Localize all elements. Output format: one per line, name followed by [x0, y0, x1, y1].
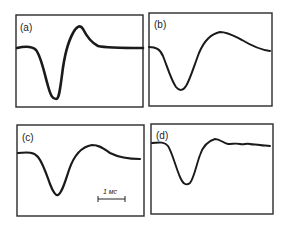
panel-a: (a) [16, 15, 143, 107]
panel-c: (c) 1 мс [17, 125, 144, 216]
panel-b: (b) [149, 13, 272, 106]
panel-c-trace [18, 145, 140, 195]
scale-bar-label: 1 мс [103, 188, 118, 195]
panel-b-trace [149, 32, 270, 90]
panel-d: (d) [151, 124, 273, 214]
panel-c-frame [17, 125, 144, 216]
panel-d-trace [152, 139, 270, 184]
panel-a-frame [16, 15, 143, 107]
panel-a-label: (a) [20, 22, 32, 33]
figure-canvas: (a) (b) (c) 1 мс (d) [0, 0, 284, 229]
panel-d-frame [151, 124, 273, 214]
scale-bar: 1 мс [98, 188, 125, 202]
panel-c-label: (c) [22, 132, 34, 143]
panel-a-trace [17, 26, 143, 99]
panel-b-frame [149, 13, 272, 106]
panel-b-label: (b) [154, 19, 166, 30]
panel-d-label: (d) [156, 130, 168, 141]
